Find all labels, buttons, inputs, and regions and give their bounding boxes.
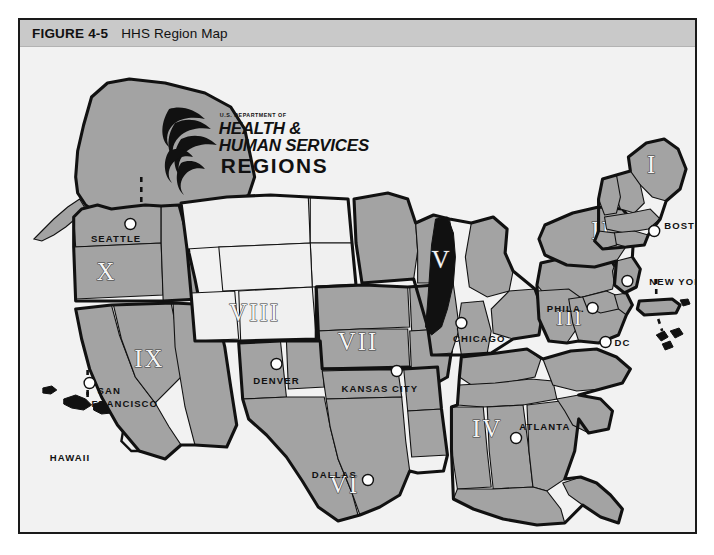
region-numeral-x: X	[97, 258, 117, 285]
figure-frame: FIGURE 4-5 HHS Region Map HAWAII	[18, 18, 697, 534]
region-numeral-v: V	[432, 246, 452, 273]
city-label-dallas: DALLAS	[312, 469, 357, 480]
city-label-san: SAN	[98, 385, 121, 396]
city-label-seattle: SEATTLE	[91, 233, 141, 244]
inset-us-virgin-islands	[656, 328, 683, 350]
figure-number: FIGURE 4-5	[32, 26, 108, 41]
figure-caption-bar: FIGURE 4-5 HHS Region Map	[20, 20, 695, 47]
city-label-atlanta: ATLANTA	[519, 421, 570, 432]
city-dot-dallas[interactable]	[362, 475, 373, 486]
city-dot-san-francisco[interactable]	[84, 378, 95, 389]
city-label-new-york: NEW YORK	[649, 276, 695, 287]
city-label-boston: BOSTON	[664, 220, 695, 231]
city-label-denver: DENVER	[253, 375, 299, 386]
city-dot-dc[interactable]	[600, 337, 611, 348]
region-numeral-iv: IV	[472, 415, 502, 442]
region-numeral-i: I	[647, 151, 657, 178]
inset-puerto-rico	[637, 299, 690, 315]
city-dot-new-york[interactable]	[622, 276, 633, 287]
city-label-dc: DC	[614, 337, 630, 348]
logo-line-2: HUMAN SERVICES	[219, 136, 370, 155]
hhs-region-map: HAWAII X IX	[20, 47, 695, 532]
city-dot-denver[interactable]	[271, 359, 282, 370]
logo-line-3: REGIONS	[221, 154, 328, 177]
city-dot-philadelphia[interactable]	[587, 303, 598, 314]
city-label-chicago: CHICAGO	[453, 333, 506, 344]
region-i-shape	[595, 139, 686, 249]
figure-title: HHS Region Map	[121, 26, 227, 41]
connector-vi-puertorico	[658, 319, 662, 331]
city-dot-chicago[interactable]	[456, 318, 467, 329]
city-dot-boston[interactable]	[649, 226, 660, 237]
city-dot-seattle[interactable]	[125, 219, 136, 230]
city-label-francisco: FRANCISCO	[92, 398, 159, 409]
logo-department: U.S. DEPARTMENT OF	[220, 112, 287, 118]
city-label-philadelphia: PHILA.	[547, 303, 585, 314]
inset-label-hawaii: HAWAII	[50, 452, 90, 463]
city-label-kansas-city: KANSAS CITY	[342, 383, 419, 394]
city-dot-atlanta[interactable]	[511, 433, 522, 444]
city-dot-kansas-city[interactable]	[391, 366, 402, 377]
region-numeral-viii: VIII	[229, 299, 280, 326]
region-x-shape	[74, 205, 199, 301]
region-numeral-vii: VII	[338, 328, 378, 355]
region-numeral-ix: IX	[134, 345, 164, 372]
map-svg: HAWAII X IX	[20, 47, 695, 532]
